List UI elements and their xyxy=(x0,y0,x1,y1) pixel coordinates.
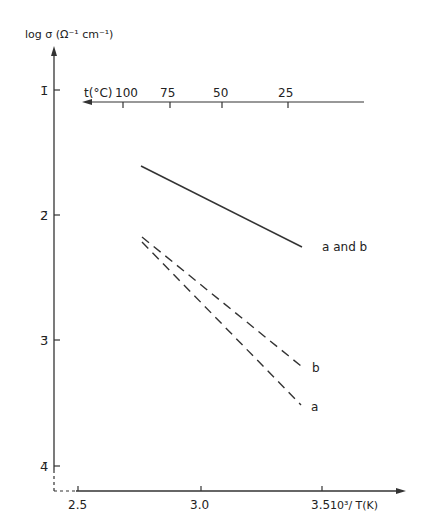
temperature-tick-label: 75 xyxy=(160,86,175,100)
temperature-tick-label: 25 xyxy=(278,86,293,100)
y-tick-label: 2̄ xyxy=(40,208,48,223)
x-ticks xyxy=(78,486,322,491)
x-tick-label: 2.5 xyxy=(68,498,87,512)
y-tick-label: 1̄ xyxy=(40,83,48,98)
x-tick-label: 3.0 xyxy=(190,498,209,512)
y-tick-label: 3̄ xyxy=(40,333,48,348)
chart: 1̄ 2̄ 3̄ 4̄ 2.5 3.0 3.5 10³/ T(K) log σ … xyxy=(0,0,430,532)
series-line-a-and-b xyxy=(141,166,302,247)
x-axis-arrow-icon xyxy=(396,488,406,494)
series-label-a: a xyxy=(311,400,318,414)
y-axis-arrow-icon xyxy=(51,46,57,56)
temperature-axis-label: t(°C) xyxy=(84,86,112,100)
temperature-tick-label: 50 xyxy=(213,86,228,100)
series-line-b xyxy=(142,237,301,366)
y-ticks xyxy=(54,90,60,466)
y-axis-label: log σ (Ω⁻¹ cm⁻¹) xyxy=(25,28,113,41)
series-label-b: b xyxy=(312,361,320,375)
y-tick-label: 4̄ xyxy=(40,459,48,474)
temperature-tick-label: 100 xyxy=(115,86,138,100)
series-label-a-and-b: a and b xyxy=(322,240,367,254)
x-axis-label: 10³/ T(K) xyxy=(330,499,378,512)
x-tick-label: 3.5 xyxy=(311,498,330,512)
series-line-a xyxy=(142,242,301,405)
